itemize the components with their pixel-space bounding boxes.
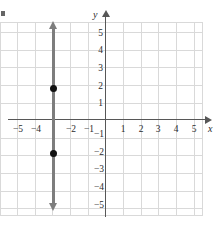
gridline-horizontal [0,22,203,23]
y-axis-arrow-icon [102,10,110,17]
x-tick-label: 2 [135,124,147,134]
y-tick-label: 3 [93,63,103,73]
y-axis [105,17,106,217]
y-tick-label: −3 [89,164,104,174]
y-tick-label: 2 [93,81,103,91]
y-tick-label: −1 [89,129,104,139]
x-tick-label: 5 [188,124,200,134]
y-tick-label: −5 [89,200,104,210]
x-tick-label: 1 [117,124,129,134]
y-tick-label: 4 [93,45,103,55]
x-axis [8,119,206,120]
plot-area: x y −5 −4 −2 −1 1 2 3 4 5 5 4 3 2 1 −1 −… [0,0,223,227]
x-tick-label: 3 [152,124,164,134]
x-tick-label: −5 [11,124,25,134]
y-tick-label: 1 [93,98,103,108]
coordinate-plane-figure: x y −5 −4 −2 −1 1 2 3 4 5 5 4 3 2 1 −1 −… [0,0,223,227]
x-tick-label: −2 [64,124,78,134]
y-tick-label: 5 [93,28,103,38]
x-tick-label: 4 [170,124,182,134]
y-tick-label: −4 [89,182,104,192]
gridline-horizontal [0,215,203,216]
plotted-point [50,150,58,158]
x-axis-label: x [208,124,212,134]
y-tick-label: −2 [89,147,104,157]
y-axis-label: y [93,10,97,20]
graph-line-arrow-up-icon [49,21,57,29]
plotted-point [50,85,58,93]
x-tick-label: −4 [29,124,43,134]
graph-line-x-equals-negative-3 [52,28,55,204]
graph-line-arrow-down-icon [49,203,57,211]
